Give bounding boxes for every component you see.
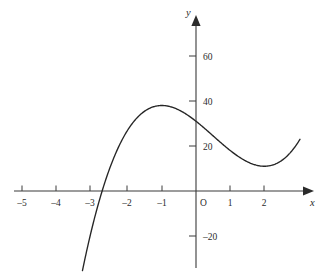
x-tick-label-1: 1 <box>228 198 233 208</box>
x-tick-label--5: –5 <box>16 198 27 208</box>
x-axis-tick-labels: –5 –4 –3 –2 –1 1 2 <box>16 198 266 208</box>
x-tick-label--4: –4 <box>50 198 61 208</box>
y-axis-tick-labels: 60 40 20 –20 <box>202 52 218 242</box>
y-tick-label-20: 20 <box>203 142 213 152</box>
y-axis-ticks <box>189 56 196 236</box>
y-axis-label: y <box>185 7 191 18</box>
cubic-curve <box>82 106 300 271</box>
y-tick-label-60: 60 <box>203 52 213 62</box>
y-tick-label--20: –20 <box>202 232 218 242</box>
origin-label: O <box>200 198 207 208</box>
x-axis-label: x <box>309 197 315 208</box>
graph-figure: –5 –4 –3 –2 –1 1 2 60 40 20 –20 O y x <box>0 0 333 274</box>
x-tick-label--1: –1 <box>156 198 167 208</box>
x-tick-label-2: 2 <box>262 198 267 208</box>
axis-group <box>14 15 314 268</box>
y-tick-label-40: 40 <box>203 97 213 107</box>
x-tick-label--3: –3 <box>84 198 95 208</box>
x-axis-ticks <box>22 186 264 192</box>
y-axis-arrowhead <box>191 15 200 26</box>
x-axis-arrowhead <box>303 186 314 195</box>
cartesian-plot: –5 –4 –3 –2 –1 1 2 60 40 20 –20 O y x <box>0 0 333 274</box>
x-tick-label--2: –2 <box>121 198 132 208</box>
